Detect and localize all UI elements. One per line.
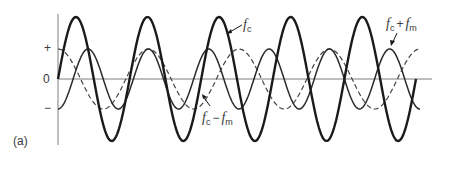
usb-label: fc+fm <box>386 17 417 33</box>
lsb-label: fc−fm <box>202 111 233 127</box>
panel-label: (a) <box>13 135 28 147</box>
waveform-plot <box>0 0 450 177</box>
usb-arrowhead-icon <box>390 40 395 46</box>
minus-marker: − <box>44 102 51 114</box>
waveform-diagram: + 0 − (a) fc fc+fm fc−fm <box>0 0 450 177</box>
zero-marker: 0 <box>43 73 50 85</box>
carrier-label: fc <box>243 18 251 34</box>
plus-marker: + <box>44 42 51 54</box>
